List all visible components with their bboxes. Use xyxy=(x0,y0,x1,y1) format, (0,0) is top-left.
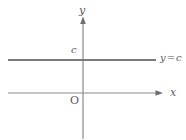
x-axis xyxy=(8,90,163,96)
equation-rhs: c xyxy=(176,52,182,63)
equation-lhs: y xyxy=(160,52,166,63)
math-diagram-coordinate-plane: y x O c y=c xyxy=(0,0,186,139)
y-axis-arrowhead-icon xyxy=(80,17,86,25)
y-axis xyxy=(80,17,86,140)
x-axis-label: x xyxy=(170,87,176,98)
diagram-canvas xyxy=(0,0,186,139)
y-axis-label: y xyxy=(79,5,85,16)
line-equation-label: y=c xyxy=(160,53,182,63)
origin-label: O xyxy=(70,95,79,106)
equation-operator: = xyxy=(166,52,176,63)
x-axis-arrowhead-icon xyxy=(156,90,164,96)
y-intercept-label: c xyxy=(71,45,77,55)
